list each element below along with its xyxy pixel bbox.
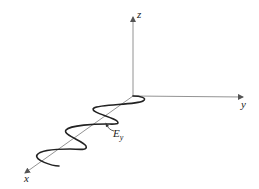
ey-label-main: E — [113, 127, 120, 139]
ey-label: Ey — [113, 128, 123, 139]
z-axis-label: z — [137, 9, 141, 20]
ey-wave — [37, 96, 145, 166]
y-axis-label: y — [241, 99, 246, 110]
ey-label-subscript: y — [120, 133, 124, 142]
x-axis-label: x — [24, 173, 29, 184]
axes-and-wave-graphic — [0, 0, 259, 189]
diagram-canvas: z y x Ey — [0, 0, 259, 189]
y-axis — [133, 96, 243, 97]
